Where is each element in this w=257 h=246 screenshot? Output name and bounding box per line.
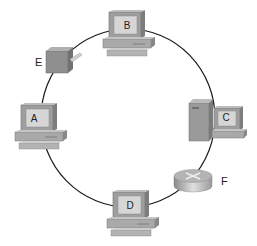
node-label-d: D — [124, 201, 136, 211]
computer-b-icon — [103, 10, 155, 56]
node-label-a: A — [28, 114, 40, 124]
ring-topology-diagram: B E A C F D — [0, 0, 257, 246]
node-label-e: E — [35, 57, 42, 68]
node-label-f: F — [221, 176, 228, 187]
computer-a-icon — [15, 103, 67, 149]
transceiver-e-icon — [46, 47, 82, 73]
node-label-c: C — [220, 113, 232, 123]
router-f-icon — [174, 170, 212, 193]
computer-d-icon — [107, 190, 159, 236]
node-label-b: B — [121, 21, 133, 31]
server-c-icon — [189, 99, 213, 141]
